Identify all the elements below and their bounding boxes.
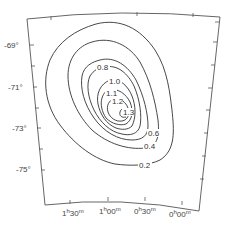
contour-label-0.8: 0.8 (97, 63, 109, 72)
x-label-0h00m: 0h00m (169, 209, 191, 219)
y-label-71: -71° (8, 83, 23, 92)
contour-label-0.6: 0.6 (148, 129, 160, 138)
x-label-0h30m: 0h30m (134, 206, 156, 216)
contour-label-1.3: 1.3 (123, 108, 135, 117)
y-axis-ticks (30, 45, 45, 170)
x-label-1h00m: 1h00m (99, 206, 121, 216)
contour-label-1.0: 1.0 (109, 77, 121, 86)
x-axis-labels: 1h30m 1h00m 0h30m 0h00m (62, 206, 191, 219)
contour-label-0.2: 0.2 (139, 161, 151, 170)
contour-chart: -69° -71° -73° -75° 1h30m 1h00m 0h30m 0h… (0, 0, 225, 226)
x-label-1h30m: 1h30m (62, 208, 84, 218)
y-label-73: -73° (12, 124, 27, 133)
y-axis-labels: -69° -71° -73° -75° (4, 41, 31, 174)
contour-label-1.2: 1.2 (112, 97, 124, 106)
y-label-75: -75° (16, 165, 31, 174)
contour-label-0.4: 0.4 (144, 142, 156, 151)
y-label-69: -69° (4, 41, 19, 50)
x-axis-ticks (70, 197, 182, 205)
right-axis-ticks (200, 22, 219, 179)
contour-labels: 0.8 1.0 1.1 1.2 1.3 0.6 0.4 0.2 (96, 63, 161, 170)
